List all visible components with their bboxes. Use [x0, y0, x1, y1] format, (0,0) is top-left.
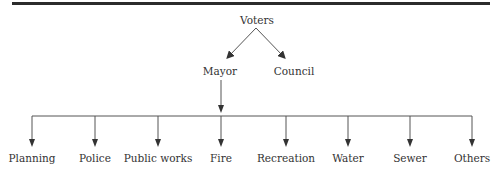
connector-lines: [0, 0, 504, 175]
node-council: Council: [274, 65, 314, 77]
node-planning: Planning: [8, 152, 55, 164]
node-sewer: Sewer: [393, 152, 427, 164]
node-voters: Voters: [240, 14, 274, 26]
node-fire: Fire: [210, 152, 232, 164]
node-water: Water: [332, 152, 364, 164]
node-mayor: Mayor: [203, 65, 237, 77]
arrow-voters-mayor: [229, 28, 256, 56]
node-public-works: Public works: [124, 152, 193, 164]
org-chart-diagram: Voters Mayor Council Planning Police Pub…: [0, 0, 504, 175]
node-recreation: Recreation: [257, 152, 315, 164]
node-others: Others: [454, 152, 490, 164]
arrow-voters-council: [256, 28, 283, 56]
node-police: Police: [79, 152, 111, 164]
